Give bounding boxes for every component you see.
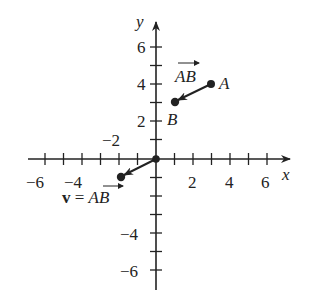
origin-point bbox=[152, 155, 160, 163]
y-tick-label: −6 bbox=[120, 262, 138, 281]
y-tick-label: 6 bbox=[137, 38, 146, 57]
vector-ab-label: AB bbox=[174, 67, 196, 86]
y-tick-label: 4 bbox=[137, 75, 146, 94]
v-head-point bbox=[117, 173, 125, 181]
y-axis: 6 4 2 −2 −4 −6 y bbox=[102, 12, 162, 290]
y-tick-label: 2 bbox=[137, 112, 146, 131]
y-axis-label: y bbox=[134, 12, 144, 31]
vector-v-label: v = AB bbox=[62, 188, 110, 207]
vector-ab: A B AB bbox=[167, 60, 230, 129]
equals-sign: = bbox=[71, 188, 89, 207]
x-tick-label: −6 bbox=[26, 173, 44, 192]
vector-v-ab-label: AB bbox=[88, 188, 110, 207]
coordinate-plane-diagram: −6 −4 2 4 6 x 6 4 2 −2 −4 −6 y bbox=[0, 0, 309, 298]
point-b-label: B bbox=[167, 110, 178, 129]
y-tick-label: −4 bbox=[120, 225, 139, 244]
x-axis-label: x bbox=[281, 165, 290, 184]
y-tick-label: −2 bbox=[102, 131, 120, 150]
x-tick-label: 6 bbox=[261, 173, 270, 192]
x-tick-label: 2 bbox=[188, 173, 197, 192]
point-a bbox=[207, 80, 215, 88]
point-a-label: A bbox=[218, 74, 230, 93]
x-tick-label: 4 bbox=[225, 173, 234, 192]
point-b bbox=[171, 98, 179, 106]
